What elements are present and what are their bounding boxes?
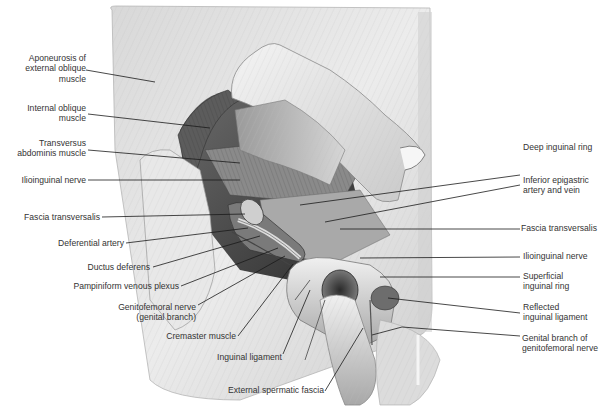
label-line: Genital branch of xyxy=(522,333,598,343)
label-line: artery and vein xyxy=(523,185,589,195)
label-line: Fascia transversalis xyxy=(521,223,597,233)
label-line: Fascia transversalis xyxy=(24,212,100,222)
label-line: inguinal ring xyxy=(523,281,569,291)
label-ilioinguinal-nerve-left: Ilioinguinal nerve xyxy=(22,175,87,185)
label-line: (genital branch) xyxy=(118,312,196,322)
label-line: Ilioinguinal nerve xyxy=(523,251,588,261)
label-line: Inguinal ligament xyxy=(217,352,282,362)
label-ilioinguinal-nerve-right: Ilioinguinal nerve xyxy=(523,251,588,261)
label-ductus-deferens: Ductus deferens xyxy=(87,262,150,272)
label-genitofemoral-genital-branch: Genitofemoral nerve (genital branch) xyxy=(118,302,196,323)
label-line: Cremaster muscle xyxy=(166,331,236,341)
label-line: Pampiniform venous plexus xyxy=(73,281,179,291)
anatomical-figure: Aponeurosis of external oblique muscle I… xyxy=(0,0,609,407)
label-transversus-abdominis: Transversus abdominis muscle xyxy=(17,138,86,159)
label-aponeurosis-external-oblique: Aponeurosis of external oblique muscle xyxy=(25,53,86,84)
label-line: External spermatic fascia xyxy=(228,385,324,395)
label-line: Genitofemoral nerve xyxy=(118,302,196,312)
label-fascia-transversalis-left: Fascia transversalis xyxy=(24,212,100,222)
label-line: inguinal ligament xyxy=(523,312,588,322)
label-reflected-inguinal-ligament: Reflected inguinal ligament xyxy=(523,302,588,323)
label-line: Ductus deferens xyxy=(87,262,150,272)
label-line: Reflected xyxy=(523,302,588,312)
label-genital-branch-genitofemoral: Genital branch of genitofemoral nerve xyxy=(522,333,598,354)
label-line: Deep inguinal ring xyxy=(523,142,592,152)
label-line: Transversus xyxy=(17,138,86,148)
label-inguinal-ligament: Inguinal ligament xyxy=(217,352,282,362)
label-line: muscle xyxy=(27,113,86,123)
label-line: Aponeurosis of xyxy=(25,53,86,63)
label-deferential-artery: Deferential artery xyxy=(58,238,124,248)
label-deep-inguinal-ring: Deep inguinal ring xyxy=(523,142,592,152)
label-cremaster-muscle: Cremaster muscle xyxy=(166,331,236,341)
label-line: Internal oblique xyxy=(27,103,86,113)
label-line: Superficial xyxy=(523,271,569,281)
label-line: Inferior epigastric xyxy=(523,175,589,185)
label-internal-oblique: Internal oblique muscle xyxy=(27,103,86,124)
label-external-spermatic-fascia: External spermatic fascia xyxy=(228,385,324,395)
label-line: Deferential artery xyxy=(58,238,124,248)
label-line: Ilioinguinal nerve xyxy=(22,175,87,185)
illustration xyxy=(0,0,609,407)
label-line: external oblique xyxy=(25,63,86,73)
label-line: muscle xyxy=(25,74,86,84)
label-pampiniform-plexus: Pampiniform venous plexus xyxy=(73,281,179,291)
label-superficial-inguinal-ring: Superficial inguinal ring xyxy=(523,271,569,292)
label-line: abdominis muscle xyxy=(17,148,86,158)
label-line: genitofemoral nerve xyxy=(522,343,598,353)
label-inferior-epigastric: Inferior epigastric artery and vein xyxy=(523,175,589,196)
label-fascia-transversalis-right: Fascia transversalis xyxy=(521,223,597,233)
